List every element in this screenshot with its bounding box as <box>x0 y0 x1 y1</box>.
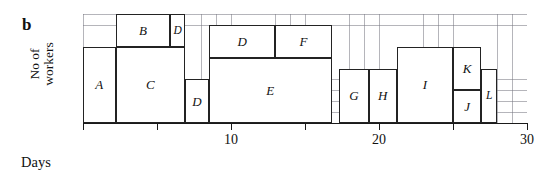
x-tick-15 <box>305 123 306 130</box>
y-axis-label: No of workers <box>6 16 78 112</box>
activity-block-d-2: D <box>170 14 185 47</box>
activity-block-e-7: E <box>209 58 332 123</box>
activity-block-label: J <box>464 100 470 113</box>
x-tick-5 <box>157 123 158 130</box>
activity-block-label: I <box>423 78 427 91</box>
activity-block-c-3: C <box>116 47 186 123</box>
activity-block-d-4: D <box>185 79 209 123</box>
plot-area: ABDCDDFEGHIKJL <box>83 14 527 123</box>
activity-block-label: H <box>378 89 387 102</box>
x-tick-30 <box>527 123 528 130</box>
activity-block-a-0: A <box>83 47 116 123</box>
y-axis-label-line-1: No of <box>28 48 42 79</box>
activity-block-label: L <box>486 90 492 102</box>
activity-block-label: G <box>349 89 358 102</box>
activity-block-label: D <box>192 95 201 108</box>
activity-block-label: K <box>463 62 472 75</box>
activity-block-label: D <box>174 25 182 37</box>
activity-block-label: F <box>300 35 308 48</box>
activity-block-l-13: L <box>481 69 497 124</box>
activity-block-label: C <box>146 78 155 91</box>
x-tick-20 <box>379 123 380 130</box>
x-tick-label-30: 30 <box>520 132 534 148</box>
activity-block-f-6: F <box>275 25 331 58</box>
x-tick-10 <box>231 123 232 130</box>
activity-block-h-9: H <box>369 69 397 124</box>
activity-block-d-5: D <box>209 25 276 58</box>
activity-block-label: A <box>95 78 103 91</box>
x-axis-label: Days <box>0 154 538 171</box>
activity-block-label: D <box>237 35 246 48</box>
y-axis-label-line-2: workers <box>42 42 56 86</box>
activity-block-b-1: B <box>116 14 171 47</box>
x-axis-label-text: Days <box>21 154 51 170</box>
activity-block-i-10: I <box>397 47 453 123</box>
x-tick-25 <box>453 123 454 130</box>
activity-block-k-11: K <box>453 47 481 91</box>
x-tick-label-20: 20 <box>372 132 386 148</box>
activity-block-label: E <box>266 84 274 97</box>
x-tick-label-10: 10 <box>224 132 238 148</box>
activity-block-label: B <box>139 24 147 37</box>
x-tick-0 <box>83 123 84 130</box>
panel-letter: b <box>22 16 31 33</box>
resource-histogram-figure: b No of workers ABDCDDFEGHIKJL Days 1020… <box>0 0 538 179</box>
activity-block-g-8: G <box>339 69 369 124</box>
activity-block-j-12: J <box>453 90 481 123</box>
